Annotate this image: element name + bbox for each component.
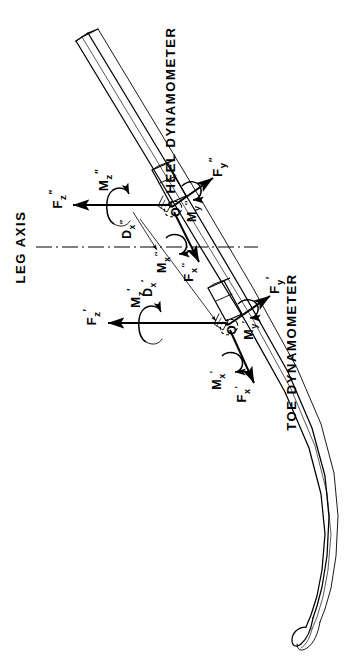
toe-force-fz-label: Fz′ — [82, 308, 102, 325]
heel-moment-mz-label: Mz″ — [94, 169, 114, 192]
toe-force-fy-label: Fy′ — [265, 276, 285, 294]
diagram-canvas: LEG AXIS O″ Fz″ Mz″ — [0, 0, 361, 665]
toe-moment-mz-arc — [139, 306, 161, 342]
leg-axis-reference: LEG AXIS — [13, 211, 258, 284]
toe-force-fz-group: Fz′ — [82, 308, 226, 325]
leg-axis-label: LEG AXIS — [13, 211, 28, 284]
ski-tip-shovel-inner — [297, 622, 320, 650]
toe-moment-mz-arc-back — [146, 339, 162, 344]
toe-force-fy-group: Fy′ — [228, 276, 285, 325]
heel-moment-mz-group: Mz″ — [94, 169, 130, 226]
ski-tail-face — [76, 37, 82, 41]
toe-moment-mx-arc — [222, 353, 243, 372]
ski-inner-edge-upper — [98, 29, 338, 622]
toe-moment-mx-group: Mx′ — [207, 353, 243, 390]
heel-moment-mz-arc — [107, 188, 129, 224]
ski-tip-shovel — [292, 618, 313, 646]
ski-dynamometer-diagram: LEG AXIS O″ Fz″ Mz″ — [0, 0, 361, 665]
heel-force-fy-label: Fy″ — [208, 157, 228, 177]
heel-force-fz-label: Fz″ — [48, 189, 68, 209]
heel-moment-mx-label: Mx″ — [152, 251, 172, 273]
heel-moment-mx-arc — [166, 235, 187, 254]
toe-moment-my-label: My′ — [239, 320, 259, 340]
heel-force-fx-label: Fx″ — [179, 262, 199, 281]
heel-dynamometer-caption: HEEL DYNAMOMETER — [163, 27, 178, 194]
toe-block-rib — [216, 294, 232, 301]
toe-moment-mx-label: Mx′ — [207, 370, 227, 390]
toe-dimension-dx-label: Dx′ — [139, 279, 158, 296]
heel-dimension-dx-group: Dx″ — [118, 212, 157, 250]
heel-dimension-dx-label: Dx″ — [118, 219, 137, 239]
heel-dimension-dx-line — [133, 212, 157, 250]
toe-dynamometer-caption: TOE DYNAMOMETER — [284, 273, 299, 430]
toe-force-fx-label: Fx′ — [232, 385, 252, 402]
heel-moment-my-label: My″ — [182, 200, 202, 222]
